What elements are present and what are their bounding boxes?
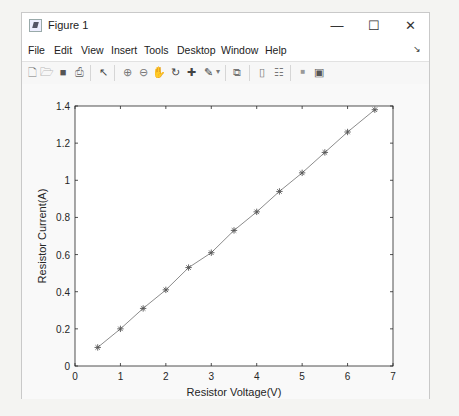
- menu-insert[interactable]: Insert: [111, 44, 137, 56]
- data-cursor-icon[interactable]: ✚: [184, 65, 198, 79]
- window-title: Figure 1: [48, 19, 88, 31]
- y-tick-label: 0.8: [56, 212, 70, 223]
- dock-figure-icon[interactable]: ↘: [413, 44, 421, 54]
- x-tick-label: 1: [118, 371, 124, 382]
- toolbar-separator: [249, 65, 250, 81]
- x-axis-label: Resistor Voltage(V): [187, 386, 282, 398]
- print-icon[interactable]: ⎙: [72, 65, 86, 79]
- menu-view[interactable]: View: [81, 44, 104, 56]
- toolbar-separator: [225, 65, 226, 81]
- save-icon[interactable]: ■: [56, 65, 70, 79]
- link-plot-icon[interactable]: ⧉: [230, 65, 244, 79]
- data-point-marker: [163, 287, 169, 293]
- figure-window: Figure 1 — ☐ ✕ File Edit View Insert Too…: [21, 12, 430, 399]
- toolbar-separator: [290, 65, 291, 81]
- zoom-in-icon[interactable]: ⊕: [120, 65, 134, 79]
- y-tick-label: 1.4: [56, 101, 70, 112]
- menu-bar: File Edit View Insert Tools Desktop Wind…: [22, 40, 429, 60]
- menu-tools[interactable]: Tools: [144, 44, 169, 56]
- brush-icon[interactable]: ✎: [201, 65, 215, 79]
- y-tick-label: 0.4: [56, 287, 70, 298]
- x-tick-label: 6: [345, 371, 351, 382]
- minimize-button[interactable]: —: [322, 16, 352, 36]
- menu-desktop[interactable]: Desktop: [177, 44, 216, 56]
- title-bar[interactable]: Figure 1 — ☐ ✕: [22, 13, 429, 39]
- figure-canvas: 0123456700.20.40.60.811.21.4Resistor Vol…: [22, 84, 429, 399]
- open-file-icon[interactable]: 🗁: [40, 65, 54, 79]
- data-point-marker: [231, 227, 237, 233]
- toolbar-separator: [114, 65, 115, 81]
- brush-dropdown-icon[interactable]: ▾: [214, 65, 222, 79]
- y-tick-label: 0.2: [56, 324, 70, 335]
- menu-edit[interactable]: Edit: [54, 44, 72, 56]
- data-point-marker: [185, 264, 191, 270]
- pan-hand-icon[interactable]: ✋: [152, 65, 166, 79]
- insert-legend-icon[interactable]: ☷: [272, 65, 286, 79]
- x-tick-label: 3: [209, 371, 215, 382]
- data-point-marker: [344, 129, 350, 135]
- y-tick-label: 1.2: [56, 138, 70, 149]
- menu-window[interactable]: Window: [221, 44, 258, 56]
- insert-colorbar-icon[interactable]: ▯: [255, 65, 269, 79]
- x-tick-label: 0: [72, 371, 78, 382]
- maximize-button[interactable]: ☐: [359, 16, 389, 36]
- new-figure-icon[interactable]: 🗋: [25, 65, 39, 79]
- toolbar-separator: [90, 65, 91, 81]
- y-tick-label: 0.6: [56, 250, 70, 261]
- menu-file[interactable]: File: [28, 44, 45, 56]
- plot-axes[interactable]: 0123456700.20.40.60.811.21.4Resistor Vol…: [22, 84, 429, 399]
- zoom-out-icon[interactable]: ⊖: [136, 65, 150, 79]
- x-tick-label: 5: [299, 371, 305, 382]
- hide-plot-tools-icon[interactable]: ■: [296, 65, 310, 79]
- x-tick-label: 4: [254, 371, 260, 382]
- y-tick-label: 1: [64, 175, 70, 186]
- select-arrow-icon[interactable]: ↖: [96, 65, 110, 79]
- y-tick-label: 0: [64, 361, 70, 372]
- rotate-3d-icon[interactable]: ↻: [168, 65, 182, 79]
- figure-toolbar: 🗋 🗁 ■ ⎙ ↖ ⊕ ⊖ ✋ ↻ ✚ ✎ ▾ ⧉ ▯ ☷ ■ ▣: [22, 61, 429, 85]
- data-point-marker: [208, 250, 214, 256]
- y-axis-label: Resistor Current(A): [36, 189, 48, 284]
- menu-help[interactable]: Help: [265, 44, 287, 56]
- data-point-marker: [117, 326, 123, 332]
- matlab-figure-icon: [29, 19, 42, 32]
- x-tick-label: 7: [390, 371, 396, 382]
- x-tick-label: 2: [163, 371, 169, 382]
- show-plot-tools-icon[interactable]: ▣: [312, 65, 326, 79]
- close-button[interactable]: ✕: [395, 16, 425, 36]
